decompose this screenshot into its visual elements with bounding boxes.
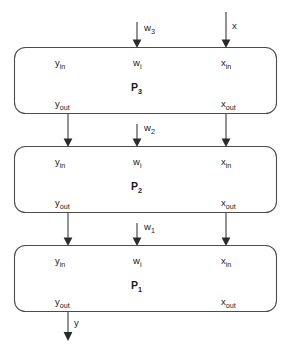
p2-block-label: P2	[131, 181, 142, 192]
connector-p3-y-to-p2-head	[64, 139, 73, 148]
arrow-w2-head	[133, 139, 142, 148]
p1-port-y-in: yin	[55, 256, 65, 266]
p3-port-y-in: yin	[55, 58, 65, 68]
arrow-w1-head	[133, 238, 142, 247]
signal-label-w2: w2	[144, 123, 155, 133]
signal-label-x: x	[232, 21, 237, 31]
connector-p3-x-to-p2-head	[222, 139, 231, 148]
signal-label-w1: w1	[144, 222, 155, 232]
p3-port-x-in: xin	[221, 58, 231, 68]
p1-port-w-i: wi	[133, 256, 141, 266]
arrow-y-out-head	[64, 332, 73, 341]
p3-port-y-out: yout	[55, 99, 70, 109]
connector-p2-x-to-p1-head	[222, 238, 231, 247]
p3-port-w-i: wi	[133, 58, 141, 68]
block-p1	[15, 246, 277, 312]
signal-label-y: y	[74, 318, 79, 328]
p3-port-x-out: xout	[221, 99, 236, 109]
diagram-canvas	[0, 0, 291, 362]
p2-port-w-i: wi	[133, 157, 141, 167]
p3-block-label: P3	[131, 82, 142, 93]
p2-port-x-out: xout	[221, 198, 236, 208]
block-p2	[15, 147, 277, 213]
block-diagram: yin wi xin P3 yout xout yin wi xin P2 yo…	[0, 0, 291, 362]
p1-port-y-out: yout	[55, 297, 70, 307]
p2-port-x-in: xin	[221, 157, 231, 167]
signal-label-w3: w3	[144, 23, 155, 33]
block-p3	[15, 48, 277, 114]
p1-block-label: P1	[131, 280, 142, 291]
arrow-x-head	[222, 40, 231, 49]
p2-port-y-out: yout	[55, 198, 70, 208]
connector-p2-y-to-p1-head	[64, 238, 73, 247]
arrow-w3-head	[133, 40, 142, 49]
p1-port-x-out: xout	[221, 297, 236, 307]
p1-port-x-in: xin	[221, 256, 231, 266]
p2-port-y-in: yin	[55, 157, 65, 167]
